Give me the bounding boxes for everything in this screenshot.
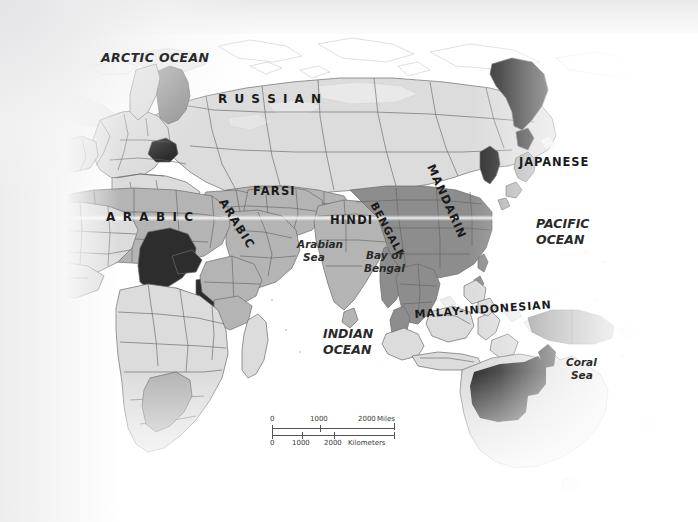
- scale-rule-upper: [272, 428, 394, 429]
- world-language-map: .coast{stroke:#6b6b6b;stroke-width:.7;st…: [0, 0, 698, 522]
- scale-km-tick-2000: 2000: [324, 439, 342, 447]
- sri-lanka: [342, 308, 358, 328]
- scale-tick-right-km: [334, 432, 335, 439]
- label-pacific-ocean-line1: PACIFIC: [536, 216, 590, 231]
- korea-peninsula: [480, 146, 500, 184]
- label-arabic-africa: A R A B I C: [106, 210, 195, 224]
- label-indian-ocean-line1: INDIAN: [323, 326, 373, 341]
- label-arabian-sea-line1: Arabian: [297, 238, 343, 250]
- scale-tick-mid-miles: [320, 425, 321, 432]
- label-coral-sea-line2: Sea: [571, 369, 593, 381]
- label-hindi: HINDI: [330, 213, 373, 227]
- taiwan: [478, 254, 488, 272]
- scale-rule-lower: [272, 435, 394, 436]
- scale-km-tick-1000: 1000: [292, 439, 310, 447]
- label-farsi: FARSI: [253, 184, 296, 198]
- label-indian-ocean-line2: OCEAN: [323, 342, 371, 357]
- scale-miles-tick-2000: 2000: [358, 415, 376, 423]
- scale-tick-end-km: [394, 432, 395, 439]
- label-coral-sea-line1: Coral: [566, 356, 597, 368]
- label-bay-of-bengal-line2: Bengal: [364, 262, 405, 274]
- scale-km-tick-0: 0: [270, 439, 274, 447]
- label-bay-of-bengal-line1: Bay of: [366, 249, 403, 261]
- label-arctic-ocean: ARCTIC OCEAN: [101, 50, 209, 65]
- label-arabian-sea-line2: Sea: [303, 251, 325, 263]
- label-japanese: JAPANESE: [519, 155, 589, 169]
- scale-miles-tick-0: 0: [270, 415, 274, 423]
- scale-tick-mid-km: [302, 432, 303, 439]
- label-russian: R U S S I A N: [218, 92, 323, 106]
- scale-tick-left: [272, 425, 273, 439]
- scale-miles-tick-1000: 1000: [310, 415, 328, 423]
- label-pacific-ocean-line2: OCEAN: [536, 232, 584, 247]
- scale-miles-unit: Miles: [377, 415, 395, 423]
- eurasia-landmass: [150, 78, 556, 200]
- scale-km-unit: Kilometers: [348, 439, 385, 447]
- scale-tick-right-miles: [394, 423, 395, 430]
- madagascar: [242, 314, 268, 378]
